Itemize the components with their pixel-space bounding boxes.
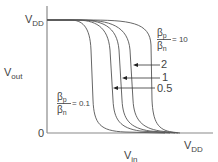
origin-label: 0: [38, 128, 44, 139]
arrowhead-0.5: [113, 86, 118, 90]
arrowhead-1: [122, 76, 127, 80]
ratio-label-0.1: βp βn = 0.1: [57, 92, 71, 115]
arrowhead-2: [133, 63, 138, 67]
y-tick-vdd: VDD: [25, 14, 44, 25]
curve-ratio-0.1: [47, 20, 165, 133]
y-axis-label: Vout: [4, 67, 22, 78]
x-axis-label: Vin: [124, 150, 138, 161]
curve-label-0.5: 0.5: [157, 83, 172, 94]
ratio-label-10: βp βn = 10: [157, 28, 171, 51]
x-tick-vdd: VDD: [184, 140, 203, 151]
curve-ratio-1: [47, 20, 175, 133]
curve-label-2: 2: [161, 59, 167, 70]
